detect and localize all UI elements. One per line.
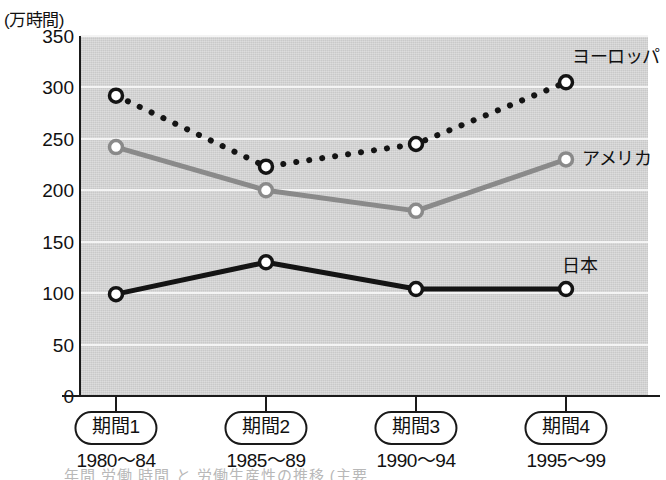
series-line-0: [116, 82, 566, 166]
data-point-marker[interactable]: [560, 283, 573, 296]
series-layer: [80, 36, 648, 396]
x-axis-line: [62, 395, 660, 397]
data-point-marker[interactable]: [410, 204, 423, 217]
x-category-pill[interactable]: 期間3: [374, 411, 457, 445]
y-axis-tick-label: 100: [0, 284, 74, 303]
plot-area: [80, 36, 648, 396]
y-axis-line: [79, 36, 81, 397]
footnote-caption: 年間 労働 時間 と 労働生産性の推移 (主要: [64, 468, 624, 480]
y-axis-tick-label: 250: [0, 129, 74, 148]
series-label-1: アメリカ: [582, 150, 651, 168]
data-point-marker[interactable]: [410, 138, 423, 151]
y-axis-tick-label: 300: [0, 78, 74, 97]
x-category-pill[interactable]: 期間1: [74, 411, 157, 445]
data-point-marker[interactable]: [560, 153, 573, 166]
y-axis-tick-label: 150: [0, 232, 74, 251]
data-point-marker[interactable]: [410, 283, 423, 296]
series-line-1: [116, 147, 566, 211]
x-category-pill[interactable]: 期間2: [224, 411, 307, 445]
data-point-marker[interactable]: [110, 141, 123, 154]
y-axis-tick-label: 200: [0, 181, 74, 200]
y-axis-tick-label: 50: [0, 335, 74, 354]
y-axis-tick-labels: 350300250200150100500: [0, 36, 74, 396]
y-axis-tick-label: 350: [0, 27, 74, 46]
data-point-marker[interactable]: [560, 76, 573, 89]
line-chart: (万時間) 350300250200150100500 ヨーロッパアメリカ日本 …: [0, 0, 666, 480]
data-point-marker[interactable]: [260, 160, 273, 173]
data-point-marker[interactable]: [110, 288, 123, 301]
series-label-2: 日本: [562, 257, 597, 275]
x-category-pill[interactable]: 期間4: [524, 411, 607, 445]
series-line-2: [116, 262, 566, 294]
series-label-0: ヨーロッパ: [572, 48, 660, 66]
data-point-marker[interactable]: [260, 256, 273, 269]
data-point-marker[interactable]: [260, 184, 273, 197]
data-point-marker[interactable]: [110, 89, 123, 102]
